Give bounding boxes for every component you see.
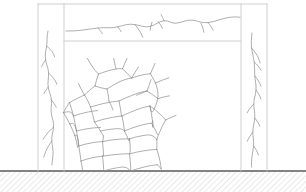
beam-crack-branch: [98, 28, 102, 34]
right-column-crack-branch: [255, 118, 260, 126]
infill-crack-segment: [130, 149, 157, 153]
infill-crack-segment: [107, 78, 132, 89]
crack-pattern-diagram: [0, 0, 306, 192]
beam-crack-branch: [201, 23, 204, 32]
infill-crack-segment: [92, 66, 99, 74]
left-column-crack-branch: [47, 46, 55, 57]
beam-crack-branch: [158, 22, 163, 29]
infill-crack-segment: [81, 161, 83, 170]
infill-crack-segment: [85, 86, 96, 95]
infill-crack-segment: [130, 135, 157, 140]
infill-crack-segment: [95, 116, 123, 122]
infill-crack-segment: [91, 107, 95, 122]
infill-crack-segment: [95, 74, 99, 86]
infill-crack-segment: [130, 139, 131, 154]
infill-crack-segment: [87, 58, 92, 66]
infill-crack-segment: [147, 80, 151, 91]
infill-crack-segment: [151, 63, 156, 73]
infill-crack-segment: [74, 111, 98, 116]
right-column-crack: [247, 33, 261, 167]
infill-crack-segment: [132, 74, 151, 78]
infill-crack-segment: [152, 123, 158, 134]
diagram-canvas: [0, 0, 306, 192]
infill-crack-segment: [103, 139, 130, 142]
infill-crack-segment: [103, 154, 130, 156]
infill-crack-segment: [79, 146, 81, 161]
ground: [0, 171, 306, 192]
infill-crack-segment: [119, 101, 122, 116]
infill-crack-segment: [122, 106, 150, 116]
beam-crack: [66, 15, 240, 38]
infill-crack-segment: [147, 91, 158, 99]
infill-crack-segment: [95, 122, 104, 136]
infill-crack-segment: [150, 99, 158, 113]
infill-crack-segment: [77, 127, 101, 131]
beam-crack-branch: [135, 25, 143, 38]
beam-crack-main: [66, 17, 240, 31]
infill-crack-segment: [81, 156, 103, 161]
infill-crack-segment: [103, 156, 104, 171]
infill-crack-segment: [125, 123, 152, 131]
beam-crack-branch: [118, 27, 121, 32]
left-column-crack-branch: [44, 141, 52, 157]
infill-crack-segment: [114, 58, 116, 69]
infill-crack-segment: [151, 74, 156, 83]
infill-crack-segment: [79, 142, 103, 146]
infill-crack-segment: [91, 101, 120, 107]
infill-crack-segment: [156, 83, 159, 99]
infill-crack-segment: [166, 115, 177, 120]
right-column-crack-branch: [254, 146, 259, 155]
infill-crack-segment: [79, 83, 85, 95]
infill-crack-segment: [103, 142, 104, 157]
infill-crack-segment: [101, 129, 125, 131]
infill-crack-segment: [95, 86, 107, 89]
infill-crack-segment: [150, 106, 153, 127]
ground-hatch: [0, 172, 306, 192]
infill-crack-segment: [123, 69, 132, 78]
left-column-crack-branch: [42, 60, 46, 66]
infill-crack-segment: [70, 95, 85, 103]
infill-crack-segment: [158, 96, 170, 99]
frame-outline: [38, 4, 267, 171]
infill-crack-segment: [122, 116, 125, 131]
infill-crack-segment: [130, 154, 131, 171]
beam-crack-branch: [208, 23, 213, 31]
infill-crack-segment: [85, 95, 91, 107]
infill-crack-segment: [156, 78, 169, 83]
right-column-crack-branch: [247, 104, 254, 113]
infill-crack-segment: [123, 58, 128, 68]
beam-crack-branch: [161, 15, 164, 21]
left-column-crack-branch: [44, 87, 48, 94]
infill-crack-segment: [107, 89, 109, 101]
right-column-crack-branch: [247, 132, 253, 141]
infill-crack-web: [64, 58, 177, 171]
infill-crack-segment: [131, 165, 158, 171]
infill-crack-segment: [70, 124, 75, 135]
left-column-crack: [42, 31, 57, 165]
right-column-crack-branch: [256, 90, 261, 99]
infill-crack-segment: [157, 120, 166, 140]
infill-crack-segment: [99, 69, 123, 74]
infill-crack-segment: [125, 131, 130, 141]
left-column-crack-branch: [49, 73, 57, 84]
left-column-crack-branch: [51, 100, 56, 107]
